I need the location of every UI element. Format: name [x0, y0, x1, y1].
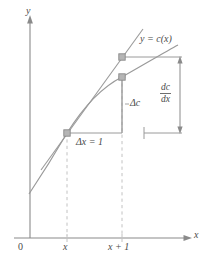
x-tick-label-x-plus-1: x + 1: [108, 242, 129, 252]
delta-c-segment: [119, 77, 130, 133]
curve-equation-label: y = c(x): [140, 34, 172, 44]
delta-x-label: Δx = 1: [76, 137, 103, 147]
cost-curve: [29, 45, 178, 194]
y-axis-label: y: [26, 6, 30, 16]
derivative-denominator: dx: [160, 94, 171, 104]
point-marker-on-curve-at-x-plus-1: [119, 74, 125, 80]
derivative-numerator: dc: [160, 82, 171, 92]
origin-label: 0: [18, 242, 23, 252]
y-axis: [27, 15, 33, 238]
marginal-cost-figure: y x 0 x x + 1 y = c(x) Δc Δx = 1 dc dx: [0, 0, 206, 262]
dashed-guide-lines: [67, 77, 122, 236]
point-marker-on-tangent-at-x-plus-1: [119, 54, 125, 60]
x-axis: [14, 235, 192, 241]
derivative-fraction-label: dc dx: [160, 82, 171, 105]
x-axis-label: x: [194, 230, 198, 240]
x-tick-label-x: x: [63, 242, 67, 252]
point-marker-at-x: [64, 130, 70, 136]
derivative-measure-arrow: [177, 56, 182, 134]
figure-canvas: [0, 0, 206, 262]
delta-c-label: Δc: [130, 98, 140, 108]
